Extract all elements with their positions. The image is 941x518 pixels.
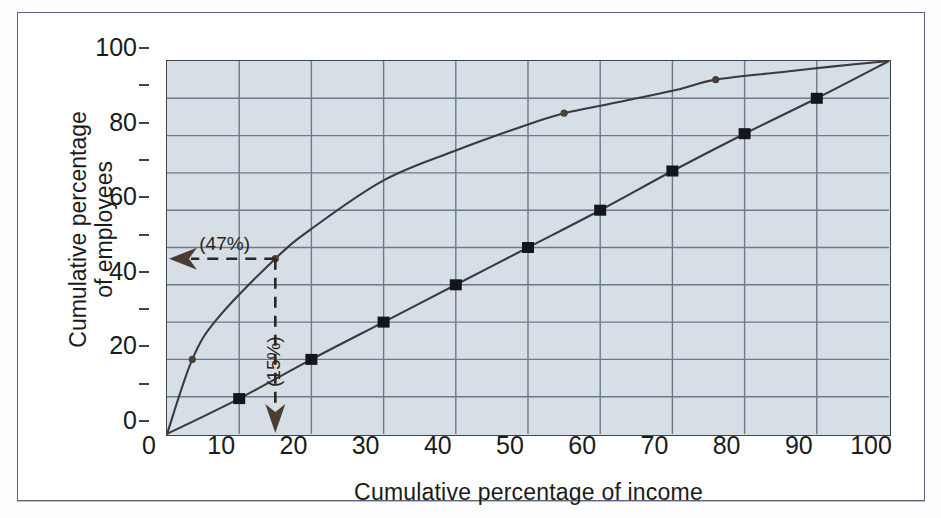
- y-minor-tickmark: [139, 383, 149, 385]
- x-axis-title: Cumulative percentage of income: [166, 479, 891, 506]
- y-minor-tickmark: [139, 234, 149, 236]
- x-tick-label: 90: [769, 433, 829, 458]
- y-tickmark: [139, 196, 149, 198]
- y-axis-title: Cumulative percentage of employees: [65, 64, 118, 394]
- x-tick-label: 50: [480, 433, 540, 458]
- x-tick-label: 60: [552, 433, 612, 458]
- page-top-edge: [0, 0, 941, 3]
- y-tickmark: [139, 271, 149, 273]
- annotation-label-15: (15%): [263, 336, 285, 387]
- y-minor-tickmark: [139, 159, 149, 161]
- y-axis-title-line2: of employees: [91, 64, 117, 394]
- y-minor-tickmark: [139, 308, 149, 310]
- x-tick-label: 100: [841, 433, 901, 458]
- annotation-label-47: (47%): [199, 233, 250, 255]
- plot-area: (47%) (15%): [166, 60, 891, 436]
- x-tick-label: 30: [336, 433, 396, 458]
- y-tickmark: [139, 122, 149, 124]
- y-tick-label: 100: [81, 35, 137, 60]
- x-tick-label: 80: [697, 433, 757, 458]
- y-tickmark: [139, 420, 149, 422]
- x-tick-label: 0: [119, 433, 179, 458]
- y-tick-label: 0: [81, 408, 137, 433]
- figure-root: 020406080100 0102030405060708090100 Cumu…: [0, 0, 941, 518]
- figure-frame: 020406080100 0102030405060708090100 Cumu…: [17, 12, 925, 501]
- plot-inner: (47%) (15%): [167, 61, 890, 435]
- y-axis-title-line1: Cumulative percentage: [65, 64, 91, 394]
- y-tickmark: [139, 345, 149, 347]
- y-minor-tickmark: [139, 84, 149, 86]
- y-tickmark: [139, 47, 149, 49]
- x-tick-label: 10: [191, 433, 251, 458]
- x-tick-label: 40: [408, 433, 468, 458]
- x-tick-label: 70: [624, 433, 684, 458]
- x-tick-label: 20: [263, 433, 323, 458]
